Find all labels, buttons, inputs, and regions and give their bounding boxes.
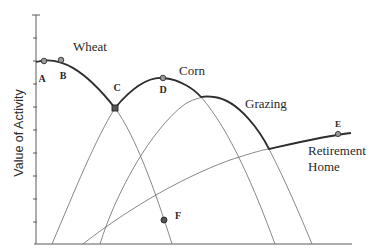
wheat-curve [36,60,172,244]
grazing-curve [100,97,312,244]
label-wheat: Wheat [73,39,107,54]
label-retirement-line2: Home [308,159,340,174]
activity-value-diagram: Value of Activity A B C D E F Wheat Corn… [0,0,379,252]
point-f [161,217,167,223]
label-grazing: Grazing [245,96,287,111]
point-label-a: A [38,73,46,84]
label-corn: Corn [179,63,206,78]
point-e [335,131,340,136]
point-a [41,58,47,64]
y-axis [32,15,40,244]
point-b [58,57,64,63]
point-c [112,105,118,111]
point-label-d: D [159,84,166,95]
y-axis-label: Value of Activity [12,89,26,177]
point-label-f: F [175,210,181,221]
point-label-e: E [335,119,341,129]
point-d [160,75,166,81]
point-label-c: C [113,82,120,93]
label-retirement-line1: Retirement [308,143,366,158]
point-label-b: B [60,70,67,81]
